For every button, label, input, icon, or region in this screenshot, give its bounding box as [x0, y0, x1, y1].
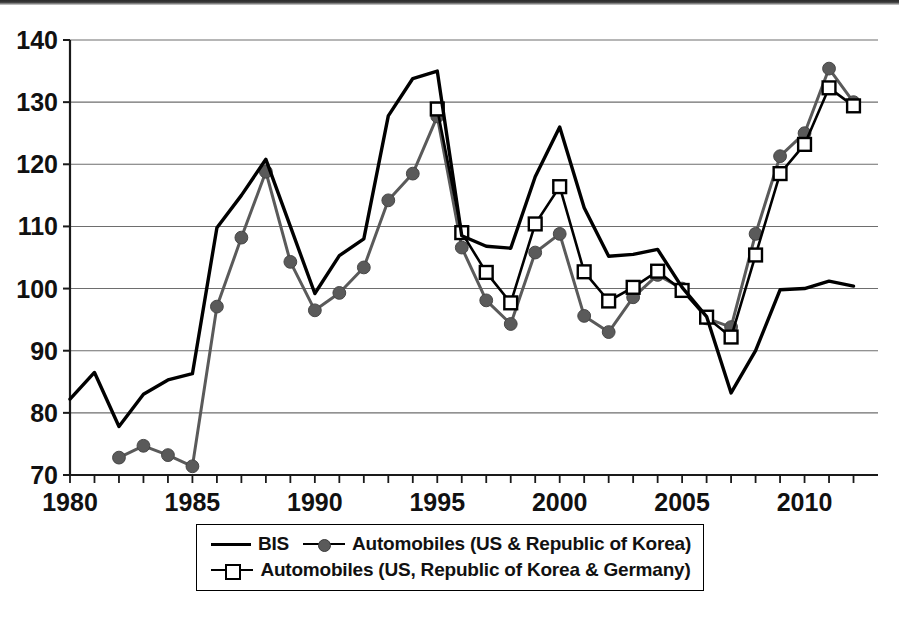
data-point-marker: [113, 451, 126, 464]
legend-row-first: BIS Automobiles (US & Republic of Korea): [207, 531, 693, 557]
data-point-marker: [627, 281, 640, 294]
x-tick-label: 1995: [409, 488, 465, 516]
data-point-marker: [823, 62, 836, 75]
y-tick-label: 110: [18, 212, 58, 240]
legend-key-auto-us-kr-de: [211, 563, 253, 577]
data-point-marker: [823, 81, 836, 94]
data-point-marker: [333, 287, 346, 300]
y-tick-label: 80: [30, 399, 58, 427]
square-line-icon: [211, 563, 253, 577]
x-tick-label: 1980: [42, 488, 98, 516]
data-point-marker: [578, 265, 591, 278]
data-point-marker: [749, 249, 762, 262]
plain-line-icon: [211, 543, 251, 546]
y-tick-label: 140: [16, 26, 58, 54]
legend-label-auto-us-kr-de: Automobiles (US, Republic of Korea & Ger…: [260, 559, 690, 581]
y-tick-label: 70: [30, 461, 58, 489]
data-point-marker: [211, 300, 224, 313]
data-series-group: [70, 62, 860, 473]
data-point-marker: [504, 318, 517, 331]
chart-legend: BIS Automobiles (US & Republic of Korea)…: [196, 524, 704, 591]
data-point-marker: [504, 296, 517, 309]
data-point-marker: [602, 295, 615, 308]
x-tick-label: 2010: [777, 488, 833, 516]
x-axis-tick-labels: 1980198519901995200020052010: [42, 488, 832, 516]
legend-label-bis: BIS: [258, 533, 289, 555]
y-tick-label: 120: [16, 150, 58, 178]
data-point-marker: [406, 167, 419, 180]
data-point-marker: [725, 331, 738, 344]
x-tick-label: 2000: [532, 488, 588, 516]
data-point-marker: [186, 460, 199, 473]
series-line-auto-us-kr-de: [437, 88, 853, 337]
data-point-marker: [480, 294, 493, 307]
data-point-marker: [529, 218, 542, 231]
data-point-marker: [382, 194, 395, 207]
data-point-marker: [651, 265, 664, 278]
legend-key-auto-us-kr: [303, 537, 345, 551]
data-point-marker: [162, 449, 175, 462]
legend-row-second: Automobiles (US, Republic of Korea & Ger…: [207, 557, 693, 583]
data-point-marker: [774, 167, 787, 180]
data-point-marker: [308, 304, 321, 317]
data-point-marker: [847, 99, 860, 112]
chart-figure: 140130120110100908070 198019851990199520…: [0, 0, 899, 621]
y-axis-tick-labels: 140130120110100908070: [16, 26, 58, 489]
data-point-marker: [357, 261, 370, 274]
circle-line-icon: [303, 537, 345, 551]
data-point-marker: [137, 439, 150, 452]
data-point-marker: [284, 255, 297, 268]
data-point-marker: [602, 326, 615, 339]
data-point-marker: [235, 231, 248, 244]
y-tick-label: 100: [16, 275, 58, 303]
data-point-marker: [529, 246, 542, 259]
data-point-marker: [578, 310, 591, 323]
x-tick-label: 1990: [287, 488, 343, 516]
data-point-marker: [798, 138, 811, 151]
data-point-marker: [553, 227, 566, 240]
data-point-marker: [480, 266, 493, 279]
data-point-marker: [553, 180, 566, 193]
y-tick-label: 90: [30, 337, 58, 365]
y-tick-label: 130: [16, 88, 58, 116]
data-point-marker: [774, 150, 787, 163]
legend-label-auto-us-kr: Automobiles (US & Republic of Korea): [352, 533, 691, 555]
x-tick-label: 1985: [165, 488, 221, 516]
legend-key-bis: [211, 543, 251, 546]
x-tick-marks-group: [70, 475, 854, 483]
x-tick-label: 2005: [654, 488, 710, 516]
data-point-marker: [455, 241, 468, 254]
